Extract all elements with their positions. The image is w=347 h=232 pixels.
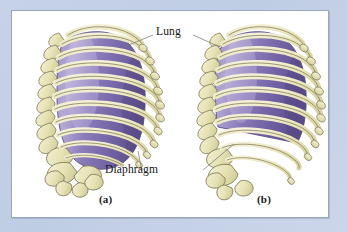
callout-lung: Lung [156,25,181,37]
callout-diaphragm: Diaphragm [105,163,158,175]
figure-b-group [197,27,326,200]
figure-root: Lung Diaphragm (a) (b) [0,0,347,232]
figure-panel: Lung Diaphragm (a) (b) [11,10,329,218]
sublabel-panel-a: (a) [99,193,112,205]
sublabel-panel-b: (b) [257,193,271,205]
anatomy-illustration [12,11,326,215]
